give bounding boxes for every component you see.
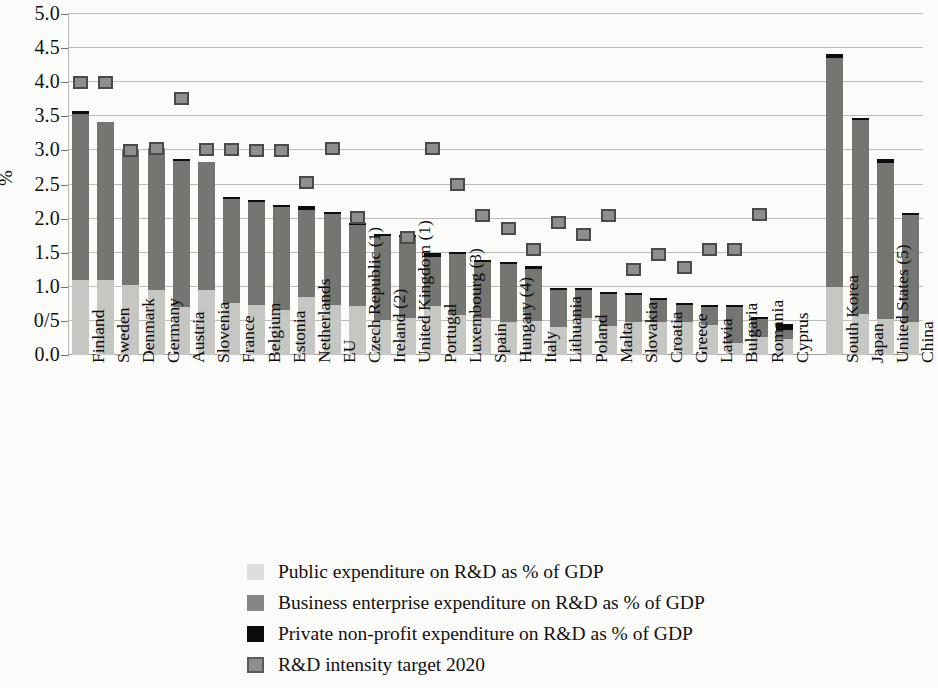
x-axis-category-label: Latvia bbox=[716, 318, 737, 363]
y-axis-tick-mark bbox=[61, 185, 68, 186]
bar-segment-private bbox=[449, 252, 466, 254]
target-marker bbox=[601, 209, 616, 222]
bar-segment-private bbox=[525, 266, 542, 269]
bar-column bbox=[72, 14, 89, 355]
bar-segment-private bbox=[650, 298, 667, 300]
bar-segment-private bbox=[550, 288, 567, 290]
legend-label: R&D intensity target 2020 bbox=[278, 655, 485, 675]
target-marker bbox=[501, 222, 516, 235]
target-marker bbox=[149, 142, 164, 155]
x-axis-category-label: South Korea bbox=[842, 275, 863, 363]
x-axis-category-label: Croatia bbox=[666, 311, 687, 363]
bar-segment-private bbox=[273, 205, 290, 207]
y-axis-title: % bbox=[0, 170, 17, 186]
x-axis-category-label: Luxembourg (3) bbox=[465, 248, 486, 363]
business-swatch bbox=[247, 595, 264, 611]
x-axis-category-label: Finland bbox=[88, 310, 109, 363]
target-marker bbox=[450, 178, 465, 191]
y-axis-tick-label: 1.0 bbox=[2, 276, 60, 296]
target-marker bbox=[123, 144, 138, 157]
bar-column bbox=[826, 14, 843, 355]
target-marker bbox=[400, 231, 415, 244]
gridline bbox=[68, 218, 923, 219]
x-axis-category-label: Malta bbox=[616, 322, 637, 363]
bar-segment-private bbox=[877, 159, 894, 164]
x-axis-category-label: United Kingdom (1) bbox=[414, 220, 435, 363]
gridline bbox=[68, 47, 923, 48]
bar-segment-business bbox=[223, 199, 240, 303]
bar-segment-private bbox=[600, 292, 617, 294]
bar-segment-business bbox=[248, 202, 265, 305]
bar-column bbox=[248, 14, 265, 355]
bar-column bbox=[701, 14, 718, 355]
bar-column bbox=[97, 14, 114, 355]
private-swatch bbox=[247, 626, 264, 642]
bar-segment-private bbox=[72, 111, 89, 114]
y-axis-tick-mark bbox=[61, 253, 68, 254]
legend-label: Private non-profit expenditure on R&D as… bbox=[278, 624, 693, 644]
x-axis-category-label: Denmark bbox=[138, 298, 159, 363]
target-swatch bbox=[247, 657, 264, 673]
bar-segment-business bbox=[173, 161, 190, 308]
target-marker bbox=[526, 243, 541, 256]
y-axis-tick-mark bbox=[61, 48, 68, 49]
bar-segment-private bbox=[852, 118, 869, 120]
bar-segment-private bbox=[826, 54, 843, 58]
target-marker bbox=[677, 261, 692, 274]
target-marker bbox=[174, 92, 189, 105]
y-axis-tick-label: 0.0 bbox=[2, 344, 60, 364]
bar-column bbox=[122, 14, 139, 355]
x-axis-category-label: Slovenia bbox=[213, 302, 234, 363]
chart-legend: Public expenditure on R&D as % of GDPBus… bbox=[247, 556, 907, 680]
bar-segment-private bbox=[298, 206, 315, 209]
gridline bbox=[68, 184, 923, 185]
bar-segment-private bbox=[701, 305, 718, 307]
x-axis-category-label: France bbox=[238, 315, 259, 363]
legend-item: Private non-profit expenditure on R&D as… bbox=[247, 618, 907, 649]
bar-segment-business bbox=[122, 150, 139, 286]
target-marker bbox=[98, 76, 113, 89]
bar-segment-private bbox=[500, 262, 517, 264]
target-marker bbox=[249, 144, 264, 157]
bar-segment-private bbox=[575, 288, 592, 290]
y-axis-tick-label: 3.5 bbox=[2, 105, 60, 125]
y-axis-tick-mark bbox=[61, 219, 68, 220]
y-axis-tick-label: 4.5 bbox=[2, 37, 60, 57]
bar-segment-business bbox=[72, 114, 89, 280]
bar-column bbox=[625, 14, 642, 355]
target-marker bbox=[325, 142, 340, 155]
bar-column bbox=[676, 14, 693, 355]
target-marker bbox=[626, 263, 641, 276]
x-axis-category-label: Slovakia bbox=[641, 302, 662, 363]
gridline bbox=[68, 286, 923, 287]
target-marker bbox=[727, 243, 742, 256]
x-axis-category-label: Portugal bbox=[440, 304, 461, 363]
x-axis-category-label: Sweden bbox=[113, 308, 134, 363]
x-axis-category-label: Czech Republic (1) bbox=[364, 227, 385, 363]
target-marker bbox=[199, 143, 214, 156]
y-axis-tick-mark bbox=[61, 321, 68, 322]
y-axis-tick-mark bbox=[61, 150, 68, 151]
target-marker bbox=[551, 216, 566, 229]
x-axis-category-label: Netherlands bbox=[314, 278, 335, 363]
target-marker bbox=[702, 243, 717, 256]
target-marker bbox=[425, 142, 440, 155]
y-axis-tick-label: 0/5 bbox=[2, 310, 60, 330]
x-axis-category-label: Romania bbox=[767, 300, 788, 363]
bar-segment-business bbox=[500, 264, 517, 322]
bar-segment-business bbox=[273, 207, 290, 310]
bar-column bbox=[500, 14, 517, 355]
x-axis-category-label: Greece bbox=[691, 313, 712, 363]
bar-segment-private bbox=[223, 197, 240, 199]
bar-segment-private bbox=[625, 293, 642, 295]
target-marker bbox=[752, 208, 767, 221]
y-axis-tick-mark bbox=[61, 287, 68, 288]
x-axis-category-label: United States (5) bbox=[892, 244, 913, 363]
bar-segment-business bbox=[826, 58, 843, 287]
bar-segment-business bbox=[97, 122, 114, 280]
bar-segment-private bbox=[173, 159, 190, 161]
legend-label: Business enterprise expenditure on R&D a… bbox=[278, 593, 705, 613]
public-swatch bbox=[247, 564, 264, 580]
x-axis-category-label: Italy bbox=[540, 331, 561, 363]
